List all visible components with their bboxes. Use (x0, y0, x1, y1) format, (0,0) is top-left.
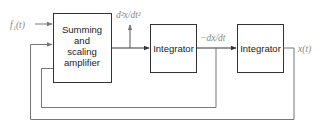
summing-amplifier-block: Summing and scaling amplifier (54, 14, 112, 83)
input-signal-label: f₁(t) (10, 20, 25, 31)
summing-label-line1: Summing (62, 24, 102, 35)
output-label: x(t) (297, 44, 311, 55)
analog-computer-block-diagram: f₁(t) Summing and scaling amplifier d²x/… (0, 0, 323, 127)
input-signal: f₁(t) (10, 20, 52, 31)
summing-label-line4: amplifier (64, 57, 100, 68)
summing-label-line2: and (74, 35, 90, 46)
integrator-2-label: Integrator (240, 43, 281, 54)
first-derivative-label: −dx/dt (200, 33, 226, 43)
second-derivative-label: d²x/dt² (116, 10, 141, 20)
integrator-1-block: Integrator (151, 25, 197, 73)
summing-label-line3: scaling (67, 46, 97, 57)
integrator-1-label: Integrator (153, 43, 194, 54)
integrator-2-block: Integrator (238, 25, 284, 73)
